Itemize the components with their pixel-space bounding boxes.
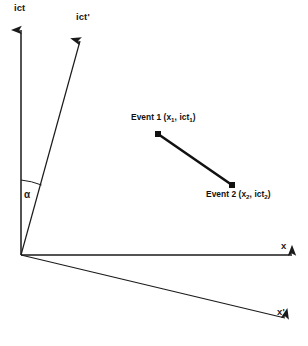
diagram-canvas xyxy=(0,0,308,346)
spacetime-diagram-figure: ict ict' x x' α Event 1 (x1, ict1) Event… xyxy=(0,0,308,346)
axis-line-x-prime xyxy=(21,255,285,318)
event-1-point-marker xyxy=(155,131,161,137)
event-1-label: Event 1 (x1, ict1) xyxy=(131,112,196,122)
event-2-coord-x-subscript: 2 xyxy=(246,193,250,200)
event-1-coord-time-subscript: 1 xyxy=(189,116,193,123)
axis-label-ict-prime: ict' xyxy=(76,11,90,22)
angle-arc-alpha xyxy=(21,180,42,185)
angle-label-alpha: α xyxy=(24,189,30,200)
event-2-coord-time: ict xyxy=(254,189,264,199)
event-2-point-marker xyxy=(229,182,235,188)
event-1-coord-time: ict xyxy=(179,112,189,122)
axis-label-ict: ict xyxy=(14,2,25,13)
axis-label-x-prime: x' xyxy=(277,306,285,317)
event-2-paren-close: ) xyxy=(268,189,271,199)
event-2-coord-time-subscript: 2 xyxy=(264,193,268,200)
event-1-name: Event 1 xyxy=(131,112,161,122)
event-2-name: Event 2 xyxy=(206,189,236,199)
event-2-label: Event 2 (x2, ict2) xyxy=(206,189,271,199)
event-1-coord-x-subscript: 1 xyxy=(171,116,175,123)
axis-label-x: x xyxy=(281,240,286,251)
event-1-paren-close: ) xyxy=(193,112,196,122)
event-connector-line xyxy=(158,134,232,185)
axis-line-ict-prime xyxy=(21,41,80,255)
